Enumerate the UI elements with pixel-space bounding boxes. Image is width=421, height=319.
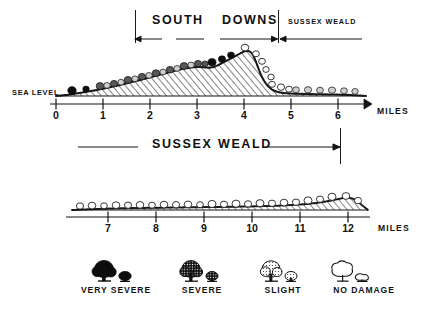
- legend-label-no-damage: NO DAMAGE: [318, 286, 410, 295]
- upper-tick-6: 6: [330, 110, 346, 121]
- upper-tick-4: 4: [236, 110, 252, 121]
- span-arrow-sussex-weald-middle: [78, 140, 358, 154]
- legend-label-slight: SLIGHT: [244, 286, 322, 295]
- legend-item-no-damage: NO DAMAGE: [318, 258, 410, 295]
- legend-item-slight: SLIGHT: [244, 258, 322, 295]
- tree-dark-stipple-icon: [160, 258, 244, 284]
- lower-tick-9: 9: [196, 223, 212, 234]
- upper-tick-0: 0: [48, 110, 64, 121]
- legend-item-very-severe: VERY SEVERE: [70, 258, 162, 295]
- lower-profile-chart: 7 8 9 10 11 12 MILES: [0, 178, 421, 242]
- upper-heading-band: SOUTH DOWNS SUSSEX WEALD: [0, 0, 421, 48]
- heading-downs: DOWNS: [222, 14, 278, 27]
- upper-tick-3: 3: [189, 110, 205, 121]
- upper-tick-5: 5: [283, 110, 299, 121]
- middle-boundary-rule: [340, 128, 341, 164]
- lower-tick-7: 7: [100, 223, 116, 234]
- legend: VERY SEVERE: [0, 258, 421, 308]
- span-arrow-south-downs: [134, 33, 284, 45]
- legend-item-severe: SEVERE: [160, 258, 244, 295]
- tree-outline-icon: [318, 258, 410, 284]
- upper-miles-label: MILES: [377, 107, 409, 116]
- upper-terrain-svg: [0, 46, 421, 118]
- lower-miles-label: MILES: [378, 224, 410, 233]
- upper-profile-chart: SEA LEVEL: [0, 46, 421, 118]
- tree-light-stipple-icon: [244, 258, 322, 284]
- lower-tick-10: 10: [243, 223, 261, 234]
- lower-axis: [66, 212, 370, 223]
- heading-south: SOUTH: [152, 14, 204, 27]
- span-arrow-sussex-weald-upper: [279, 33, 363, 45]
- legend-label-severe: SEVERE: [160, 286, 244, 295]
- upper-axis: [50, 99, 364, 110]
- upper-tick-2: 2: [142, 110, 158, 121]
- heading-sussex-weald-upper: SUSSEX WEALD: [288, 18, 356, 25]
- figure-root: SOUTH DOWNS SUSSEX WEALD S: [0, 0, 421, 319]
- middle-heading-band: SUSSEX WEALD: [0, 126, 421, 168]
- upper-tick-1: 1: [95, 110, 111, 121]
- lower-tick-12: 12: [339, 223, 357, 234]
- lower-tick-8: 8: [148, 223, 164, 234]
- tree-solid-icon: [70, 258, 162, 284]
- legend-label-very-severe: VERY SEVERE: [70, 286, 162, 295]
- upper-axis-endcap: [364, 99, 372, 109]
- lower-tick-11: 11: [291, 223, 309, 234]
